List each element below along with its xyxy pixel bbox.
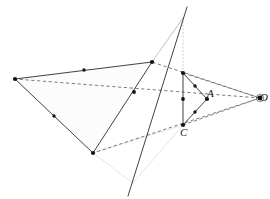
point-big-cross-mid (132, 90, 136, 94)
big-triangle-fill (15, 62, 152, 153)
label-A: A (207, 88, 214, 99)
label-O: O (260, 92, 268, 103)
dotted-construction-lines-layer (152, 18, 183, 73)
label-C: C (180, 127, 187, 138)
point-small-bot-mid (193, 110, 196, 113)
point-big-bottom (91, 151, 95, 155)
geometry-figure-canvas: ACO (0, 0, 270, 199)
point-big-top-right (150, 60, 154, 64)
region-fill-layer (15, 62, 152, 153)
faint-right (133, 125, 183, 183)
point-big-left-mid (52, 114, 55, 117)
point-small-top (181, 71, 185, 75)
faint-left (93, 153, 133, 183)
point-big-top-mid (82, 68, 85, 71)
point-big-left (13, 77, 17, 81)
point-small-left-mid (181, 97, 185, 101)
geometry-diagram (0, 0, 270, 199)
cevian-long (128, 7, 187, 196)
point-small-top-mid (193, 84, 196, 87)
